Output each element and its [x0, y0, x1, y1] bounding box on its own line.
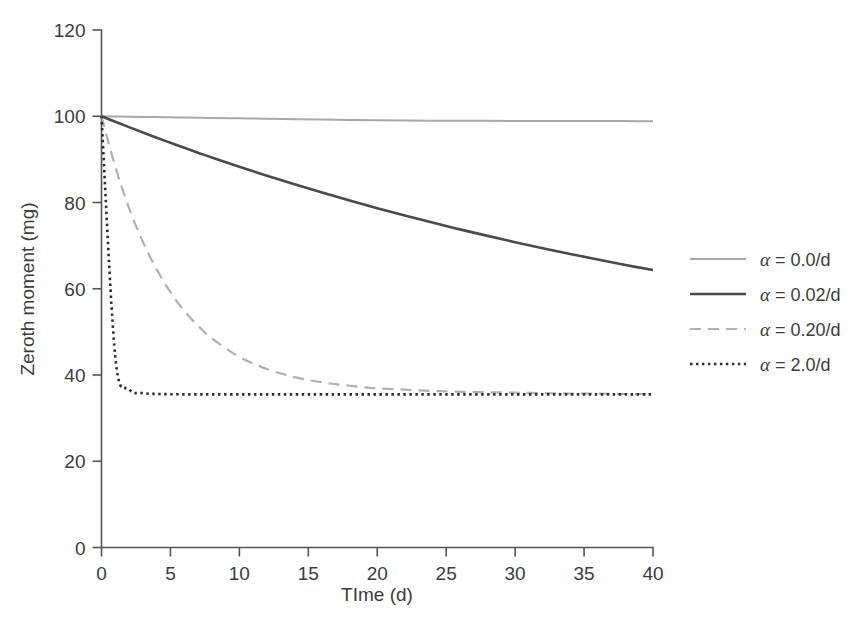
legend-label-alpha-0.0: α = 0.0/d — [760, 249, 831, 270]
y-tick-label: 120 — [54, 20, 86, 41]
y-axis-title: Zeroth moment (mg) — [17, 202, 38, 375]
x-tick-label: 25 — [436, 563, 457, 584]
x-tick-label: 10 — [229, 563, 250, 584]
legend-label-alpha-2.0: α = 2.0/d — [760, 354, 831, 375]
y-tick-label: 0 — [75, 538, 86, 559]
axes — [102, 30, 654, 548]
x-tick-label: 35 — [573, 563, 594, 584]
legend-label-alpha-0.20: α = 0.20/d — [760, 319, 841, 340]
series-line-alpha-2.0 — [102, 116, 654, 394]
y-tick-label: 20 — [64, 451, 85, 472]
y-tick-label: 40 — [64, 365, 85, 386]
y-tick-label: 100 — [54, 106, 86, 127]
legend-value: = 0.02/d — [770, 285, 841, 305]
x-tick-label: 20 — [367, 563, 388, 584]
x-axis-tick-labels: 0510152025303540 — [96, 563, 663, 584]
legend-value: = 2.0/d — [770, 355, 831, 375]
x-axis-title: TIme (d) — [341, 584, 413, 605]
legend-label-alpha-0.02: α = 0.02/d — [760, 284, 841, 305]
x-tick-label: 30 — [505, 563, 526, 584]
x-tick-label: 15 — [298, 563, 319, 584]
chart-figure: 020406080100120 0510152025303540 Zeroth … — [0, 0, 868, 619]
x-axis-ticks — [102, 548, 654, 557]
series-line-alpha-0.0 — [102, 116, 654, 121]
y-axis-tick-labels: 020406080100120 — [54, 20, 86, 559]
y-axis-ticks — [93, 30, 102, 548]
legend-value: = 0.20/d — [770, 320, 841, 340]
series-line-alpha-0.02 — [102, 116, 654, 270]
data-series-group — [102, 116, 654, 394]
x-tick-label: 5 — [165, 563, 176, 584]
chart-legend: α = 0.0/dα = 0.02/dα = 0.20/dα = 2.0/d — [690, 249, 841, 375]
x-tick-label: 0 — [96, 563, 107, 584]
legend-value: = 0.0/d — [770, 250, 831, 270]
line-chart: 020406080100120 0510152025303540 Zeroth … — [0, 0, 868, 619]
y-tick-label: 80 — [64, 193, 85, 214]
y-tick-label: 60 — [64, 279, 85, 300]
x-tick-label: 40 — [642, 563, 663, 584]
